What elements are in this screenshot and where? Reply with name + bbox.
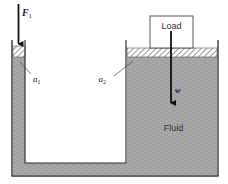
force-label: F1	[21, 7, 32, 19]
small-piston	[13, 46, 25, 57]
a1-label: a1	[33, 74, 41, 85]
inner-walls	[25, 40, 126, 163]
weight-label: w	[175, 86, 181, 95]
a2-label: a2	[99, 74, 107, 85]
hydraulic-lift-diagram: Load F1 a1 a2 w Fluid	[0, 0, 228, 184]
fluid-region	[13, 57, 217, 175]
load-label: Load	[161, 21, 181, 31]
fluid-label: Fluid	[164, 123, 184, 133]
large-piston	[127, 48, 217, 57]
